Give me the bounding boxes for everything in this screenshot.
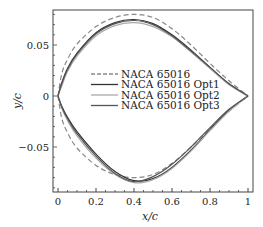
y-tick-label: 0 xyxy=(43,91,49,102)
legend: NACA 65016NACA 65016 Opt1NACA 65016 Opt2… xyxy=(91,68,220,112)
x-tick-label: 0.2 xyxy=(88,196,104,207)
x-tick-label: 0.8 xyxy=(202,196,218,207)
x-tick-label: 0.4 xyxy=(126,196,142,207)
y-axis-ticks: −0.0500.05 xyxy=(18,14,57,187)
airfoil-chart: 00.20.40.60.81 −0.0500.05 x/c y/c NACA 6… xyxy=(0,0,263,227)
y-axis-label: y/c xyxy=(11,93,24,110)
x-axis-ticks: 00.20.40.60.81 xyxy=(55,188,251,207)
x-tick-label: 1 xyxy=(245,196,251,207)
y-tick-label: 0.05 xyxy=(27,40,49,51)
x-tick-label: 0 xyxy=(55,196,61,207)
y-tick-label: −0.05 xyxy=(18,142,49,153)
x-axis-label: x/c xyxy=(142,210,158,223)
legend-label: NACA 65016 Opt3 xyxy=(121,99,220,111)
x-tick-label: 0.6 xyxy=(164,196,180,207)
